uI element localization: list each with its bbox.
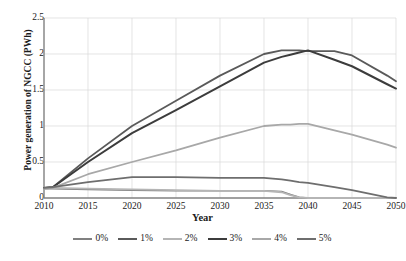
x-tick-label: 2040 [299, 202, 318, 212]
x-tick-label: 2020 [123, 202, 142, 212]
legend-item-2pct[interactable]: 2% [163, 234, 198, 244]
legend-swatch-icon [73, 238, 92, 240]
legend-swatch-icon [163, 238, 182, 240]
legend-item-0pct[interactable]: 0% [73, 234, 108, 244]
legend-item-3pct[interactable]: 3% [208, 234, 243, 244]
x-axis-title: Year [0, 212, 405, 223]
legend-label: 1% [140, 234, 153, 244]
legend-swatch-icon [208, 238, 227, 240]
chart-legend: 0%1%2%3%4%5% [0, 234, 405, 244]
x-tick-label: 2045 [343, 202, 362, 212]
x-tick-label: 2010 [35, 202, 54, 212]
legend-label: 4% [274, 234, 287, 244]
legend-swatch-icon [118, 238, 137, 240]
x-tick-label: 2035 [255, 202, 274, 212]
x-tick-label: 2015 [79, 202, 98, 212]
legend-label: 2% [185, 234, 198, 244]
legend-label: 3% [230, 234, 243, 244]
x-tick-label: 2050 [387, 202, 406, 212]
x-tick-label: 2025 [167, 202, 186, 212]
legend-swatch-icon [297, 238, 316, 240]
legend-swatch-icon [252, 238, 271, 240]
legend-item-1pct[interactable]: 1% [118, 234, 153, 244]
x-tick-label: 2030 [211, 202, 230, 212]
legend-label: 5% [319, 234, 332, 244]
legend-item-5pct[interactable]: 5% [297, 234, 332, 244]
legend-item-4pct[interactable]: 4% [252, 234, 287, 244]
legend-label: 0% [95, 234, 108, 244]
